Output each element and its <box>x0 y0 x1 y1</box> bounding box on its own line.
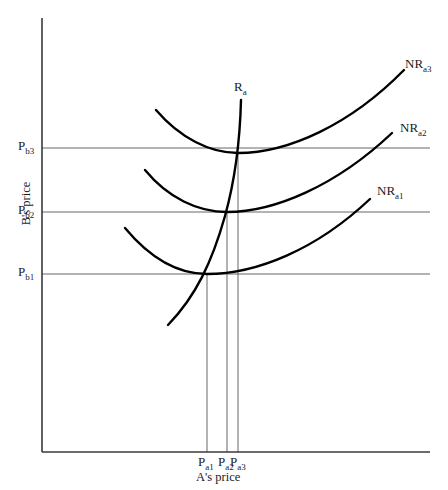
x-tick-label-p-a1: Pa1 <box>198 455 214 472</box>
economics-diagram: B's price A's price Pb3Pb2Pb1Pa1Pa2Pa3 N… <box>0 0 448 490</box>
curve-label-nr-a2: NRa2 <box>400 121 427 138</box>
curve-nr-a3 <box>156 70 404 153</box>
x-axis-title: A's price <box>196 470 240 485</box>
y-tick-label-p-b2: Pb2 <box>18 203 34 220</box>
curves-group <box>125 70 404 325</box>
plot-canvas <box>0 0 448 490</box>
y-tick-label-p-b3: Pb3 <box>18 139 34 156</box>
curve-label-nr-a1: NRa1 <box>377 184 404 201</box>
x-tick-label-p-a3: Pa3 <box>230 455 246 472</box>
curve-label-r-a: Ra <box>234 80 247 97</box>
y-tick-label-p-b1: Pb1 <box>18 265 34 282</box>
curve-nr-a2 <box>145 133 392 212</box>
curve-label-nr-a3: NRa3 <box>405 57 432 74</box>
drop-lines-group <box>207 153 238 452</box>
